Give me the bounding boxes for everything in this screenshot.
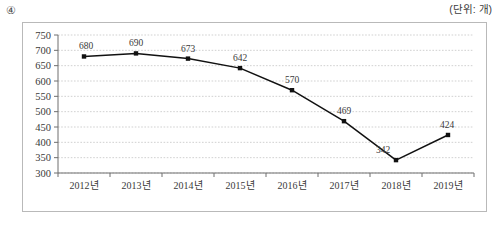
chart-frame: 7507006506005505004504003503002012년2013년… bbox=[22, 22, 487, 212]
x-axis-tick-label: 2014년 bbox=[174, 180, 203, 191]
data-point-marker bbox=[394, 158, 398, 162]
data-point-label: 642 bbox=[233, 53, 248, 63]
data-point-marker bbox=[238, 66, 242, 70]
y-axis-tick-label: 750 bbox=[35, 30, 51, 41]
data-point-label: 424 bbox=[440, 120, 455, 130]
series-line-path bbox=[84, 53, 448, 160]
y-axis-tick-label: 300 bbox=[35, 168, 51, 179]
data-point-marker bbox=[134, 51, 138, 55]
line-chart: 7507006506005505004504003503002012년2013년… bbox=[23, 23, 486, 211]
x-axis-tick-label: 2012년 bbox=[70, 180, 99, 191]
unit-label: (단위: 개) bbox=[449, 2, 492, 16]
chart-page: ④ (단위: 개) 750700650600550500450400350300… bbox=[0, 0, 502, 225]
y-axis-tick-label: 400 bbox=[35, 137, 51, 148]
y-axis-tick-label: 650 bbox=[35, 60, 51, 71]
data-point-label: 469 bbox=[337, 106, 352, 116]
y-axis-tick-label: 600 bbox=[35, 76, 51, 87]
x-axis-tick-label: 2015년 bbox=[226, 180, 255, 191]
y-axis-tick-label: 350 bbox=[35, 152, 51, 163]
data-point-label: 673 bbox=[181, 44, 196, 54]
data-point-label: 690 bbox=[129, 38, 144, 48]
y-axis-tick-label: 450 bbox=[35, 122, 51, 133]
item-number-label: ④ bbox=[6, 3, 16, 17]
x-axis-tick-label: 2018년 bbox=[382, 180, 411, 191]
x-axis-tick-label: 2013년 bbox=[122, 180, 151, 191]
data-point-marker bbox=[290, 88, 294, 92]
data-point-label: 570 bbox=[285, 75, 300, 85]
data-point-marker bbox=[446, 133, 450, 137]
data-point-label: 680 bbox=[79, 41, 94, 51]
data-point-marker bbox=[342, 119, 346, 123]
x-axis-tick-label: 2017년 bbox=[330, 180, 359, 191]
data-point-marker bbox=[186, 56, 190, 60]
data-point-label: 342 bbox=[376, 145, 391, 155]
y-axis-tick-label: 700 bbox=[35, 45, 51, 56]
data-point-marker bbox=[82, 54, 86, 58]
y-axis-tick-label: 550 bbox=[35, 91, 51, 102]
x-axis-tick-label: 2019년 bbox=[434, 180, 463, 191]
y-axis-tick-label: 500 bbox=[35, 106, 51, 117]
x-axis-tick-label: 2016년 bbox=[278, 180, 307, 191]
